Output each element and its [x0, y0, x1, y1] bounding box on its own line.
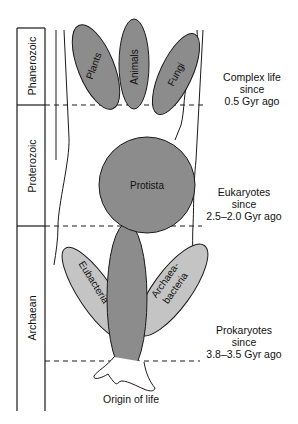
annotation-line: since — [240, 83, 265, 95]
annotation-line: 3.8–3.5 Gyr ago — [206, 348, 281, 360]
annotation-line: Eukaryotes — [218, 186, 271, 198]
protista-label: Protista — [130, 180, 164, 191]
eukaryote-stem — [107, 223, 147, 373]
animals-label: Animals — [129, 49, 140, 85]
eon-label-phanerozoic: Phanerozoic — [26, 37, 38, 95]
eon-label-proterozoic: Proterozoic — [26, 139, 38, 192]
annotation-prokaryotes: Prokaryotes since 3.8–3.5 Gyr ago — [206, 324, 281, 360]
annotation-complex-life: Complex life since 0.5 Gyr ago — [223, 71, 281, 107]
annotation-line: since — [232, 336, 257, 348]
protista-node: Protista — [99, 137, 195, 233]
annotation-line: Complex life — [223, 71, 281, 83]
annotation-line: Prokaryotes — [216, 324, 272, 336]
annotation-line: 2.5–2.0 Gyr ago — [206, 210, 281, 222]
origin-of-life-label: Origin of life — [103, 393, 159, 405]
annotation-line: 0.5 Gyr ago — [225, 95, 280, 107]
annotation-line: since — [232, 198, 257, 210]
tree-of-life-diagram: Eubacteria Archaea- bacteria Protista Pl… — [0, 0, 298, 424]
animals-branch: Animals — [119, 19, 149, 109]
eon-label-archaean: Archaean — [26, 295, 38, 340]
origin-of-life-shape — [94, 357, 155, 391]
annotation-eukaryotes: Eukaryotes since 2.5–2.0 Gyr ago — [206, 186, 281, 222]
